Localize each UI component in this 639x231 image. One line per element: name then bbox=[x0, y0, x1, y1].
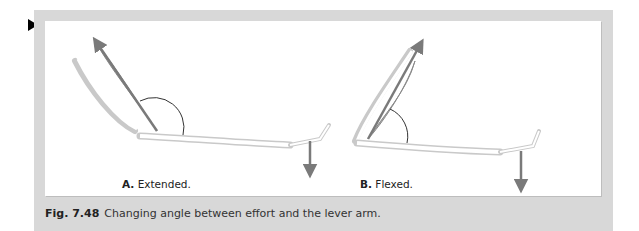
figure-frame: A. Extended. B. Flexed. Fig. 7.48Changin… bbox=[34, 10, 613, 231]
figure-caption-text: Changing angle between effort and the le… bbox=[104, 207, 380, 220]
extended-arm-drawing bbox=[75, 41, 329, 171]
panel-a-text: Extended. bbox=[138, 178, 191, 190]
panel-b-text: Flexed. bbox=[375, 178, 413, 190]
panel-b-label: B. Flexed. bbox=[360, 178, 413, 190]
flexed-arm-drawing bbox=[355, 45, 539, 186]
panel-a-label: A. Extended. bbox=[122, 178, 191, 190]
panel-b-letter: B. bbox=[360, 178, 372, 190]
figure-panel: A. Extended. B. Flexed. bbox=[45, 21, 601, 196]
lever-arm-illustration bbox=[45, 21, 601, 196]
figure-number: Fig. 7.48 bbox=[45, 207, 99, 220]
figure-caption: Fig. 7.48Changing angle between effort a… bbox=[45, 207, 381, 220]
panel-a-letter: A. bbox=[122, 178, 134, 190]
